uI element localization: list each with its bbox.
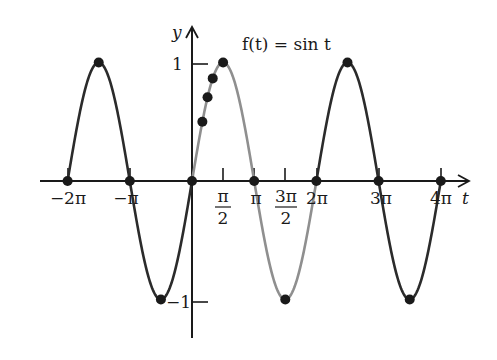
x-tick-label-pi-half: π 2 <box>215 186 231 228</box>
x-tick-label-3pi: 3π <box>370 188 392 208</box>
x-tick-label-pi: π <box>250 188 261 208</box>
x-tick-label-4pi: 4π <box>430 188 452 208</box>
y-tick-label-neg1: −1 <box>166 292 191 312</box>
x-tick-label-2pi: 2π <box>306 188 328 208</box>
sine-graph: y f(t) = sin t 1 −1 −2π −π π 2 π 3π 2 2π… <box>0 0 497 360</box>
y-tick-label-1: 1 <box>172 54 183 74</box>
x-tick-label-3pi-half: 3π 2 <box>275 186 297 228</box>
svg-text:3π: 3π <box>275 186 297 206</box>
svg-text:2: 2 <box>218 208 229 228</box>
data-point <box>218 58 228 68</box>
svg-text:2: 2 <box>281 208 292 228</box>
data-point <box>125 176 135 186</box>
data-point <box>311 176 321 186</box>
chart-title: f(t) = sin t <box>242 34 331 54</box>
svg-text:π: π <box>217 186 228 206</box>
data-point <box>374 176 384 186</box>
x-tick-label-negpi: −π <box>113 188 138 208</box>
data-point <box>94 58 104 68</box>
data-point <box>63 176 73 186</box>
data-point <box>156 295 166 305</box>
data-point <box>208 73 218 83</box>
data-point <box>197 117 207 127</box>
t-axis-label: t <box>462 188 469 208</box>
data-point <box>187 176 197 186</box>
data-point <box>280 295 290 305</box>
x-tick-label-neg2pi: −2π <box>50 188 86 208</box>
y-axis-label: y <box>171 22 182 42</box>
data-point <box>343 58 353 68</box>
data-point <box>249 176 259 186</box>
data-point <box>405 295 415 305</box>
data-point <box>436 176 446 186</box>
data-point <box>203 92 213 102</box>
